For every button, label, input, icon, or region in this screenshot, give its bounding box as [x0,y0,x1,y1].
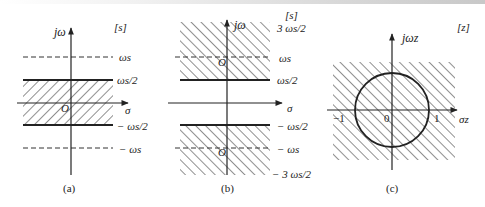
caption-b: (b) [221,182,234,195]
3ws2-label: 3 ωs/2 [276,22,306,34]
origin-label-lower: O [218,146,226,158]
panel-c: jωz [z] −1 0 1 σz (c) [327,21,470,195]
ws-label: ωs [119,51,131,63]
mws2-label: − ωs/2 [277,120,308,132]
mws-label: − ωs [277,143,299,155]
tick-minus-one: −1 [333,112,345,124]
plane-label: [s] [114,21,127,33]
z-plane-hatch [333,62,455,160]
sigma-label: σ [287,102,293,114]
panel-a: jω [s] ωs ωs/2 σ O − ωs/2 − ωs (a) [17,21,148,195]
plane-label: [s] [285,9,298,21]
caption-c: (c) [386,182,399,195]
tick-one: 1 [434,112,440,124]
s-plane-z-plane-mapping-diagram: jω [s] ωs ωs/2 σ O − ωs/2 − ωs (a) jω [s… [0,0,485,207]
sigma-label: σ [125,104,131,116]
upper-strip-hatch [180,22,270,80]
jwz-label: jωz [400,31,419,45]
jw-label: jω [232,18,246,32]
tick-zero: 0 [384,112,390,124]
m3ws2-label: − 3 ωs/2 [272,168,312,180]
ws-label: ωs [279,52,291,64]
ws2-label: ωs/2 [117,74,138,86]
caption-a: (a) [63,182,76,195]
jw-label: jω [52,25,66,39]
mws2-label: − ωs/2 [117,120,148,132]
plane-label: [z] [457,21,470,33]
mws-label: − ωs [119,143,141,155]
panel-b: jω [s] 3 ωs/2 ωs ωs/2 σ O − ωs/2 O − ωs … [168,9,312,195]
origin-label-upper: O [218,56,226,68]
ws2-label: ωs/2 [277,74,298,86]
sigma-z-label: σz [459,113,469,125]
origin-label: O [61,102,69,114]
